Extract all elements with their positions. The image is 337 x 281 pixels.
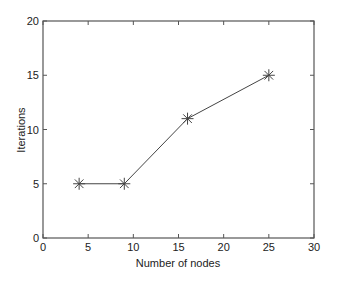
y-tick-label: 5 xyxy=(33,178,39,190)
tick-labels: 05101520253005101520 xyxy=(27,15,320,253)
x-axis-label: Number of nodes xyxy=(136,257,221,269)
y-tick-label: 0 xyxy=(33,232,39,244)
x-tick-label: 5 xyxy=(85,241,91,253)
asterisk-marker xyxy=(263,69,275,81)
line-chart: 05101520253005101520 Number of nodes Ite… xyxy=(0,0,337,281)
y-tick-label: 10 xyxy=(27,124,39,136)
x-tick-label: 15 xyxy=(172,241,184,253)
chart-figure: 05101520253005101520 Number of nodes Ite… xyxy=(0,0,337,281)
series-line xyxy=(79,75,269,184)
x-tick-label: 10 xyxy=(127,241,139,253)
asterisk-marker xyxy=(118,178,130,190)
y-tick-label: 20 xyxy=(27,15,39,27)
asterisk-marker xyxy=(182,113,194,125)
x-tick-label: 0 xyxy=(40,241,46,253)
axis-ticks xyxy=(43,21,314,238)
x-tick-label: 25 xyxy=(263,241,275,253)
asterisk-marker xyxy=(73,178,85,190)
y-axis-label: Iterations xyxy=(15,107,27,153)
data-series xyxy=(73,69,275,190)
x-tick-label: 20 xyxy=(218,241,230,253)
x-tick-label: 30 xyxy=(308,241,320,253)
axes-box xyxy=(43,21,314,238)
y-tick-label: 15 xyxy=(27,69,39,81)
plot-frame xyxy=(43,21,314,238)
